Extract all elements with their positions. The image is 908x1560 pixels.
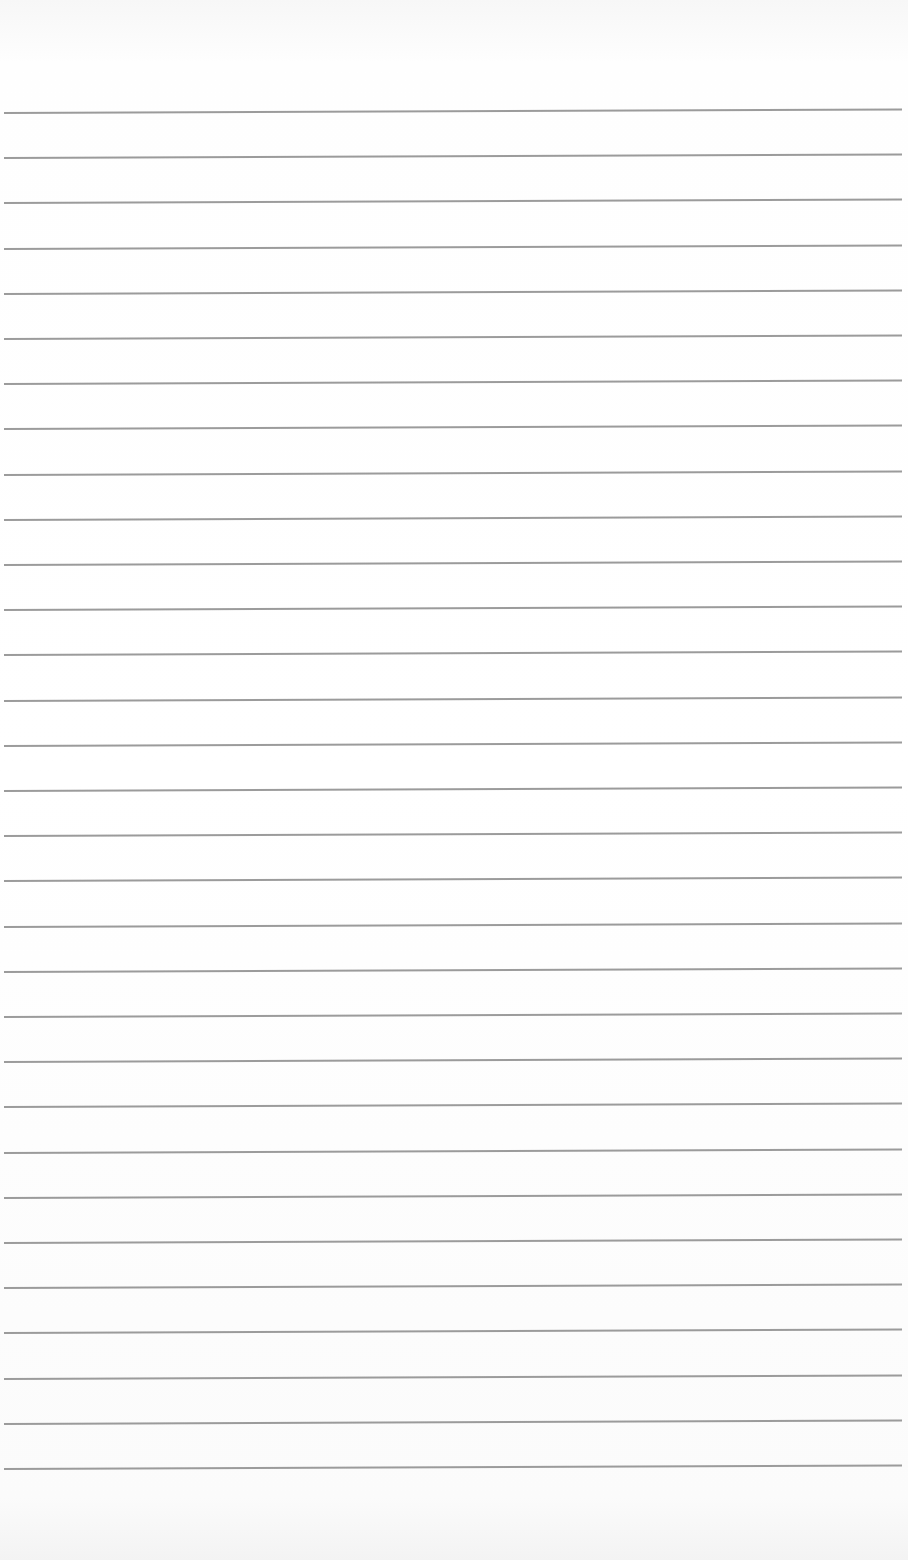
ruled-line bbox=[4, 109, 902, 114]
ruled-line bbox=[4, 1239, 902, 1244]
ruled-line bbox=[4, 1284, 902, 1289]
ruled-line bbox=[4, 1058, 902, 1063]
ruled-line bbox=[4, 561, 902, 566]
ruled-line bbox=[4, 651, 902, 656]
ruled-line bbox=[4, 244, 902, 249]
ruled-line bbox=[4, 1374, 902, 1379]
ruled-line bbox=[4, 1148, 902, 1153]
ruled-line bbox=[4, 199, 902, 204]
ruled-line bbox=[4, 335, 902, 340]
ruled-line bbox=[4, 696, 902, 701]
ruled-line bbox=[4, 967, 902, 972]
ruled-line bbox=[4, 289, 902, 294]
ruled-line bbox=[4, 1193, 902, 1198]
ruled-line bbox=[4, 470, 902, 475]
ruled-line bbox=[4, 425, 902, 430]
ruled-line bbox=[4, 1419, 902, 1424]
ruled-line bbox=[4, 877, 902, 882]
ruled-line bbox=[4, 154, 902, 159]
ruled-line bbox=[4, 380, 902, 385]
ruled-line bbox=[4, 1013, 902, 1018]
ruled-line bbox=[4, 606, 902, 611]
ruled-line bbox=[4, 832, 902, 837]
ruled-line bbox=[4, 515, 902, 520]
lined-paper-sheet bbox=[0, 0, 908, 1560]
ruled-line bbox=[4, 1103, 902, 1108]
ruled-line bbox=[4, 1465, 902, 1470]
ruled-line bbox=[4, 1329, 902, 1334]
ruled-line bbox=[4, 787, 902, 792]
ruled-line bbox=[4, 741, 902, 746]
ruled-line bbox=[4, 922, 902, 927]
